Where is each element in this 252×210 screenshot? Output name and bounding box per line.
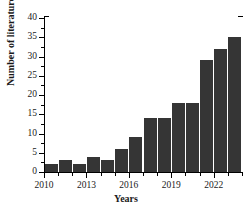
bar-2017 xyxy=(144,118,157,172)
x-tick-2016 xyxy=(129,173,130,178)
y-tick-label-40: 40 xyxy=(7,13,37,23)
bar-2013 xyxy=(87,157,100,172)
x-tick-2014 xyxy=(101,173,102,176)
y-tick-label-5: 5 xyxy=(7,148,37,158)
bar-2019 xyxy=(172,103,185,172)
x-tick-2011 xyxy=(58,173,59,176)
y-tick-label-35: 35 xyxy=(7,32,37,42)
x-tick-label-2010: 2010 xyxy=(24,180,64,190)
y-tick-label-0: 0 xyxy=(7,167,37,177)
x-axis-title: Years xyxy=(0,193,252,204)
x-tick-2023 xyxy=(228,173,229,176)
plot-area xyxy=(44,18,242,172)
bar-2016 xyxy=(129,137,142,172)
y-tick-label-25: 25 xyxy=(7,71,37,81)
bar-2021 xyxy=(200,60,213,172)
bar-2022 xyxy=(214,49,227,172)
bar-2012 xyxy=(73,164,86,172)
axis-top-right-stub xyxy=(238,16,243,17)
x-tick-label-2022: 2022 xyxy=(194,180,234,190)
axis-top-left-stub xyxy=(44,16,49,17)
bar-chart: Number of literatures 0510152025303540 2… xyxy=(0,0,252,210)
x-tick-2019 xyxy=(171,173,172,178)
x-tick-2022 xyxy=(214,173,215,178)
bar-2014 xyxy=(101,160,114,172)
bar-2020 xyxy=(186,103,199,172)
y-tick-label-10: 10 xyxy=(7,129,37,139)
x-tick-2018 xyxy=(157,173,158,176)
x-tick-label-2013: 2013 xyxy=(66,180,106,190)
y-tick-label-20: 20 xyxy=(7,90,37,100)
bar-2015 xyxy=(115,149,128,172)
y-tick-label-15: 15 xyxy=(7,109,37,119)
x-tick-2010 xyxy=(44,173,45,178)
y-tick-label-30: 30 xyxy=(7,52,37,62)
x-tick-label-2019: 2019 xyxy=(151,180,191,190)
bar-2010 xyxy=(45,164,58,172)
x-tick-2017 xyxy=(143,173,144,176)
x-tick-2020 xyxy=(185,173,186,176)
bar-2018 xyxy=(158,118,171,172)
x-tick-label-2016: 2016 xyxy=(109,180,149,190)
x-tick-2013 xyxy=(86,173,87,178)
x-tick-2021 xyxy=(200,173,201,176)
x-tick-2015 xyxy=(115,173,116,176)
bar-2011 xyxy=(59,160,72,172)
bar-2023 xyxy=(228,37,241,172)
x-tick-end xyxy=(242,173,243,176)
x-tick-2012 xyxy=(72,173,73,176)
